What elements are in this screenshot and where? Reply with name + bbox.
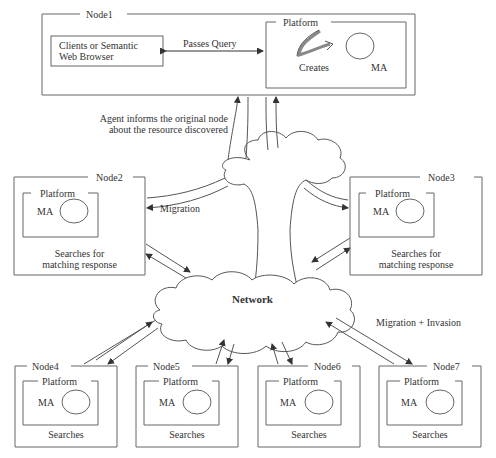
node6-ma-label: MA bbox=[280, 397, 296, 408]
node4-platform-box bbox=[23, 381, 98, 425]
node7-ma-label: MA bbox=[401, 397, 417, 408]
node2-ma-label: MA bbox=[37, 206, 53, 217]
node2-title: Node2 bbox=[96, 172, 123, 183]
client-box-line2: Web Browser bbox=[59, 51, 113, 62]
creates-arrow-icon bbox=[299, 31, 330, 55]
node7-title: Node7 bbox=[433, 361, 460, 372]
node4-caption: Searches bbox=[15, 429, 117, 440]
node1-ma-circle bbox=[346, 33, 374, 59]
node2-caption2: matching response bbox=[14, 259, 145, 270]
cloud-network bbox=[153, 272, 354, 354]
node7-platform-box bbox=[387, 381, 462, 425]
node1-title: Node1 bbox=[86, 9, 113, 20]
node5-title: Node5 bbox=[153, 361, 180, 372]
node5-ma-label: MA bbox=[159, 397, 175, 408]
node7-caption: Searches bbox=[379, 429, 481, 440]
node4-platform-title: Platform bbox=[42, 376, 77, 387]
node1-platform-title: Platform bbox=[283, 17, 318, 28]
node6-platform-box bbox=[266, 381, 341, 425]
node4-ma-label: MA bbox=[38, 397, 54, 408]
inform-label-line1: Agent informs the original node bbox=[60, 113, 228, 124]
node3-platform-title: Platform bbox=[375, 188, 410, 199]
diagram-graphics bbox=[0, 0, 496, 458]
node6-caption: Searches bbox=[258, 429, 360, 440]
node3-caption1: Searches for bbox=[350, 248, 482, 259]
node2-platform-title: Platform bbox=[40, 188, 75, 199]
node3-caption2: matching response bbox=[350, 259, 482, 270]
migration-label: Migration bbox=[160, 203, 200, 214]
node7-platform-title: Platform bbox=[404, 376, 439, 387]
mobile-agent-network-diagram: Node1 Clients or Semantic Web Browser Pa… bbox=[0, 0, 496, 458]
passes-query-label: Passes Query bbox=[183, 38, 237, 49]
node6-platform-title: Platform bbox=[283, 376, 318, 387]
inform-label-line2: about the resource discovered bbox=[60, 124, 228, 135]
node5-caption: Searches bbox=[136, 429, 238, 440]
node3-title: Node3 bbox=[428, 172, 455, 183]
node1-ma-label: MA bbox=[371, 62, 387, 73]
node2-caption1: Searches for bbox=[14, 248, 145, 259]
node1-platform-box bbox=[266, 22, 406, 88]
client-box-line1: Clients or Semantic bbox=[59, 40, 138, 51]
node5-platform-box bbox=[144, 381, 219, 425]
node6-title: Node6 bbox=[314, 361, 341, 372]
creates-label: Creates bbox=[299, 62, 329, 73]
network-label: Network bbox=[232, 294, 273, 305]
migration-invasion-label: Migration + Invasion bbox=[376, 317, 461, 328]
node3-ma-label: MA bbox=[373, 206, 389, 217]
node4-title: Node4 bbox=[32, 361, 59, 372]
node5-platform-title: Platform bbox=[163, 376, 198, 387]
